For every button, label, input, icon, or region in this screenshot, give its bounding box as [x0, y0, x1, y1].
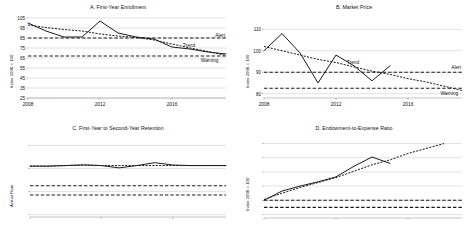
annotation-warning: Warning — [440, 91, 458, 96]
x-tick-label: 2012 — [331, 102, 342, 107]
y-tick-label: 110 — [254, 27, 261, 32]
annotation-trend: Trend — [183, 43, 195, 48]
x-tick-label: 2016 — [167, 102, 178, 107]
panel-d-canvas — [236, 121, 472, 243]
panel-a: A. First-Year Enrollment Index 2008 = 10… — [0, 0, 236, 121]
y-tick-label: 55 — [20, 66, 25, 71]
series-actual-line — [264, 34, 390, 83]
panel-c-canvas — [0, 121, 236, 243]
x-tick-label: 2016 — [403, 102, 414, 107]
series-trend-line — [264, 46, 462, 90]
panel-d: D. Endowment-to-Expense Ratio Index 2008… — [236, 121, 472, 243]
panel-c: C. First-Year to Second-Year Retention A… — [0, 121, 236, 243]
annotation-alert: Alert — [451, 65, 461, 70]
series-actual-line — [30, 163, 226, 168]
y-tick-label: 80 — [256, 91, 261, 96]
x-tick-label: 2008 — [259, 102, 270, 107]
panel-b: B. Market Price Index 2008 = 100 8090100… — [236, 0, 472, 121]
y-tick-label: 65 — [20, 56, 25, 61]
x-tick-label: 2012 — [95, 102, 106, 107]
series-trend-line — [264, 144, 444, 200]
y-tick-label: 105 — [17, 16, 25, 21]
annotation-trend: Trend — [347, 60, 359, 65]
series-trend-line — [28, 25, 226, 56]
y-tick-label: 90 — [256, 70, 261, 75]
y-tick-label: 75 — [20, 46, 25, 51]
annotation-alert: Alert — [215, 33, 225, 38]
y-tick-label: 95 — [20, 26, 25, 31]
y-tick-label: 35 — [20, 86, 25, 91]
y-tick-label: 45 — [20, 76, 25, 81]
chart-figure: A. First-Year Enrollment Index 2008 = 10… — [0, 0, 472, 243]
x-tick-label: 2008 — [23, 102, 34, 107]
annotation-warning: Warning — [201, 58, 219, 63]
y-tick-label: 85 — [20, 36, 25, 41]
series-actual-line — [264, 157, 390, 200]
y-tick-label: 100 — [253, 48, 261, 53]
y-tick-label: 25 — [20, 96, 25, 101]
